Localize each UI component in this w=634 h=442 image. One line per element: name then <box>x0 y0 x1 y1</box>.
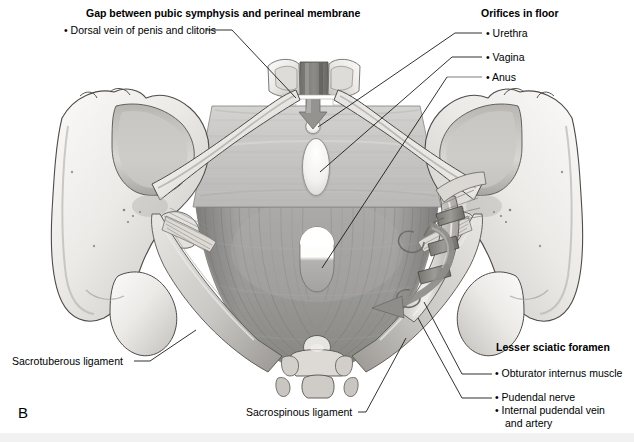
gap-heading-label: Gap between pubic symphysis and perineal… <box>86 7 360 21</box>
urethra-label: • Urethra <box>486 27 528 41</box>
obturator-internus-label: • Obturator internus muscle <box>495 367 622 381</box>
anus-orifice <box>300 227 334 292</box>
sacrotuberous-ligament-label: Sacrotuberous ligament <box>12 355 123 369</box>
internal-pudendal-continuation-label: and artery <box>505 417 552 431</box>
bottom-band <box>0 433 634 442</box>
vagina-label: • Vagina <box>486 51 525 65</box>
anatomy-figure-panel-b: Gap between pubic symphysis and perineal… <box>0 0 634 442</box>
leader-pudendal <box>418 318 462 398</box>
dorsal-vein-label: • Dorsal vein of penis and clitoris <box>64 24 216 38</box>
anus-label: • Anus <box>486 71 516 85</box>
orifices-heading-label: Orifices in floor <box>481 7 559 21</box>
internal-pudendal-label: • Internal pudendal vein <box>495 404 605 418</box>
pudendal-nerve-label: • Pudendal nerve <box>495 391 575 405</box>
lesser-sciatic-heading-label: Lesser sciatic foramen <box>496 341 610 355</box>
sacrospinous-ligament-label: Sacrospinous ligament <box>246 406 352 420</box>
panel-letter: B <box>18 404 28 421</box>
vagina-orifice <box>301 138 331 198</box>
perineal-membrane-trapezoid <box>193 92 441 207</box>
